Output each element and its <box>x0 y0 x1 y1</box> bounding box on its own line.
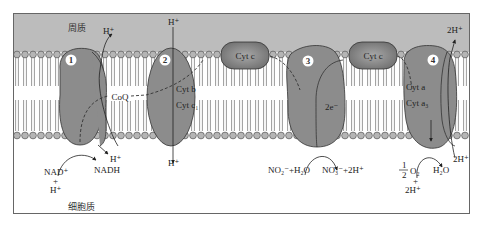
complex-3: 3 2e⁻ <box>287 46 345 147</box>
two-h-plus-complex4-top: 2H⁺ <box>447 25 463 35</box>
cytoplasm-label: 细胞质 <box>68 201 95 212</box>
nadh-label: NADH <box>94 165 120 175</box>
coq-carrier: CoQ <box>109 92 131 102</box>
complex-4-number: 4 <box>431 55 436 65</box>
cyt-b-label: Cyt b <box>176 84 196 94</box>
cyt-c-carrier-2: Cyt c <box>349 42 397 69</box>
complex-1: 1 <box>60 48 107 146</box>
h2o-label: H₂O <box>433 165 450 175</box>
fraction-denominator: 2 <box>402 170 407 180</box>
complex-2-number: 2 <box>163 55 168 65</box>
no3-2h-label: NO₃⁻+2H⁺ <box>322 165 364 175</box>
cyt-a-label: Cyt a <box>406 82 425 92</box>
cyt-c1-label: Cyt c₁ <box>176 100 198 110</box>
cyt-c-label-1: Cyt c <box>235 51 254 61</box>
complex-4: 4 Cyt a Cyt a₃ <box>404 46 457 149</box>
h-plus-complex2-bottom: H⁺ <box>168 158 179 168</box>
periplasm-label: 周质 <box>68 22 86 33</box>
fraction-numerator: 1 <box>402 160 407 170</box>
electron-transport-chain-diagram: 1 2 Cyt b Cyt c₁ Cyt c 3 2e⁻ Cyt c 4 Cyt… <box>0 0 480 227</box>
no2-h2o-label: NO₂⁻+H₂O <box>268 165 311 175</box>
two-h-plus-cyto: 2H⁺ <box>405 185 421 195</box>
complex-1-number: 1 <box>69 55 74 65</box>
two-h-plus-right: 2H⁺ <box>453 154 469 164</box>
coq-label: CoQ <box>111 92 129 102</box>
cyt-a3-label: Cyt a₃ <box>406 98 428 108</box>
h-plus-cyto-1: H⁺ <box>50 185 61 195</box>
h-plus-complex2-top: H⁺ <box>168 17 179 27</box>
h-plus-out-1: H⁺ <box>110 154 121 164</box>
o2-label: O₂ <box>410 166 420 176</box>
two-electron-label: 2e⁻ <box>325 102 338 112</box>
cyt-c-label-2: Cyt c <box>363 51 382 61</box>
h-plus-complex1-top: H⁺ <box>103 26 114 36</box>
complex-3-number: 3 <box>306 56 311 66</box>
cyt-c-carrier-1: Cyt c <box>221 42 269 69</box>
